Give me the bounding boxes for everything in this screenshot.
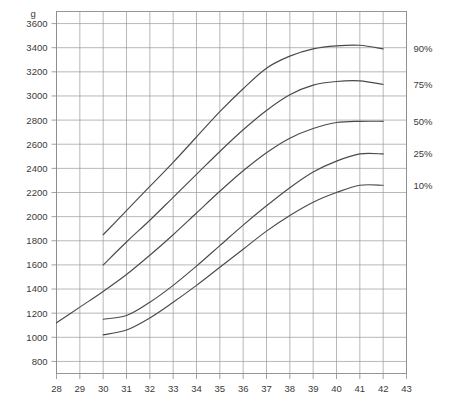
legend-label-75pct: 75%: [414, 79, 434, 90]
x-tick-label: 41: [355, 383, 366, 394]
y-tick-label: 2600: [26, 139, 47, 150]
x-tick-label: 34: [191, 383, 202, 394]
y-tick-label: 2800: [26, 115, 47, 126]
y-tick-label: 3400: [26, 42, 47, 53]
x-tick-label: 39: [308, 383, 319, 394]
x-tick-label: 42: [378, 383, 389, 394]
y-tick-label: 1400: [26, 283, 47, 294]
legend-label-50pct: 50%: [414, 116, 434, 127]
x-axis-tick-labels: 28293031323334353637383940414243: [51, 383, 412, 394]
x-tick-label: 32: [145, 383, 156, 394]
y-tick-label: 1600: [26, 259, 47, 270]
legend-label-90pct: 90%: [414, 43, 434, 54]
x-tick-label: 40: [331, 383, 342, 394]
legend-label-25pct: 25%: [414, 148, 434, 159]
y-tick-label: 2200: [26, 187, 47, 198]
y-tick-label: 2000: [26, 211, 47, 222]
x-tick-label: 31: [121, 383, 132, 394]
y-axis-tick-labels: 8001000120014001600180020002200240026002…: [26, 18, 47, 367]
y-tick-label: 3000: [26, 90, 47, 101]
y-tick-label: 2400: [26, 163, 47, 174]
y-tick-label: 3600: [26, 18, 47, 29]
unit-label-grams: g: [31, 8, 36, 19]
x-tick-label: 33: [168, 383, 179, 394]
x-tick-label: 37: [261, 383, 272, 394]
x-tick-label: 38: [285, 383, 296, 394]
y-tick-label: 3200: [26, 66, 47, 77]
y-tick-label: 1800: [26, 235, 47, 246]
fetal-weight-percentile-chart: 28293031323334353637383940414243 8001000…: [0, 0, 449, 411]
x-tick-label: 35: [215, 383, 226, 394]
x-tick-label: 43: [401, 383, 412, 394]
axis-tick-marks: [52, 24, 407, 379]
y-tick-label: 1200: [26, 308, 47, 319]
y-tick-label: 800: [32, 356, 48, 367]
y-tick-label: 1000: [26, 332, 47, 343]
y-axis-unit-label: g: [31, 8, 36, 19]
x-tick-label: 36: [238, 383, 249, 394]
x-tick-label: 29: [75, 383, 86, 394]
x-tick-label: 28: [51, 383, 62, 394]
series-legend: 90%75%50%25%10%: [414, 43, 434, 190]
x-tick-label: 30: [98, 383, 109, 394]
legend-label-10pct: 10%: [414, 180, 434, 191]
chart-canvas: 28293031323334353637383940414243 8001000…: [0, 0, 449, 411]
